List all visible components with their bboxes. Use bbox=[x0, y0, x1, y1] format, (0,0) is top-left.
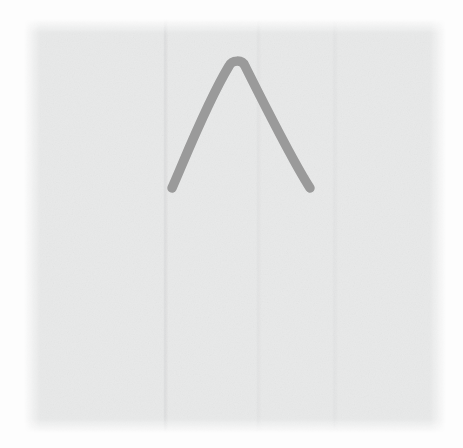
caret-stroke bbox=[172, 61, 310, 188]
ink-layer bbox=[0, 0, 463, 448]
screenshot-stage bbox=[0, 0, 463, 448]
